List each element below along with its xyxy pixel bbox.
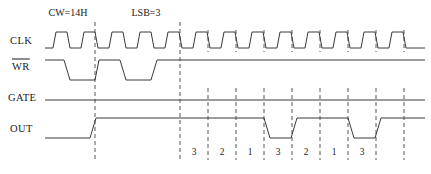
signal-label-clk: CLK (10, 35, 32, 46)
count-label: 3 (360, 147, 365, 157)
count-label: 2 (220, 147, 225, 157)
control-word-annotation: CW=14H (49, 7, 88, 18)
wr-waveform (45, 60, 425, 80)
count-label-group: 3213213 (192, 147, 365, 157)
timing-diagram-root: CLK WR GATE OUT CW=14H LSB=3 3213213 (0, 0, 431, 174)
out-waveform (45, 118, 425, 138)
timing-diagram-canvas: CLK WR GATE OUT CW=14H LSB=3 3213213 (0, 0, 431, 174)
lsb-annotation: LSB=3 (132, 7, 161, 18)
count-label: 1 (332, 147, 337, 157)
signal-label-gate: GATE (8, 92, 36, 103)
signal-label-out: OUT (10, 123, 33, 134)
count-label: 3 (192, 147, 197, 157)
clk-waveform (45, 32, 425, 48)
signal-label-wr: WR (12, 61, 30, 72)
count-label: 2 (304, 147, 309, 157)
count-label: 3 (276, 147, 281, 157)
count-label: 1 (248, 147, 253, 157)
